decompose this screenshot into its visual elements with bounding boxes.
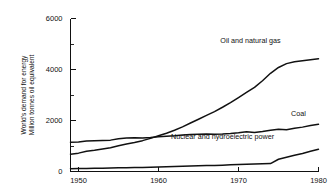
y-tick-label: 0 bbox=[58, 167, 62, 176]
x-tick-label: 1970 bbox=[230, 176, 247, 185]
series-line-nuclear-and-hydroelectric-power bbox=[71, 149, 319, 168]
series-annotations: Oil and natural gasCoalNuclear and hydro… bbox=[171, 36, 306, 140]
y-tick-label: 6000 bbox=[46, 14, 63, 23]
y-axis-tick-labels: 0200040006000 bbox=[46, 14, 63, 176]
y-axis-title-line-2: Million tonnes oil equivalent bbox=[28, 55, 36, 136]
y-axis-title: World's demand for energy Million tonnes… bbox=[20, 55, 36, 136]
series-label-oil-and-natural-gas: Oil and natural gas bbox=[220, 36, 281, 45]
y-tick-label: 2000 bbox=[46, 116, 63, 125]
chart-canvas: 0200040006000 1950196019701980 Oil and n… bbox=[0, 0, 334, 196]
x-tick-label: 1960 bbox=[150, 176, 167, 185]
data-series-group bbox=[71, 59, 319, 169]
y-tick-label: 4000 bbox=[46, 65, 63, 74]
energy-demand-line-chart: 0200040006000 1950196019701980 Oil and n… bbox=[0, 0, 334, 196]
x-tick-label: 1950 bbox=[70, 176, 87, 185]
x-axis-tick-labels: 1950196019701980 bbox=[70, 176, 327, 185]
series-label-coal: Coal bbox=[291, 109, 306, 118]
x-tick-label: 1980 bbox=[310, 176, 327, 185]
y-axis-title-line-1: World's demand for energy bbox=[20, 55, 28, 135]
series-label-nuclear-and-hydroelectric-power: Nuclear and hydroelectric power bbox=[171, 132, 275, 141]
